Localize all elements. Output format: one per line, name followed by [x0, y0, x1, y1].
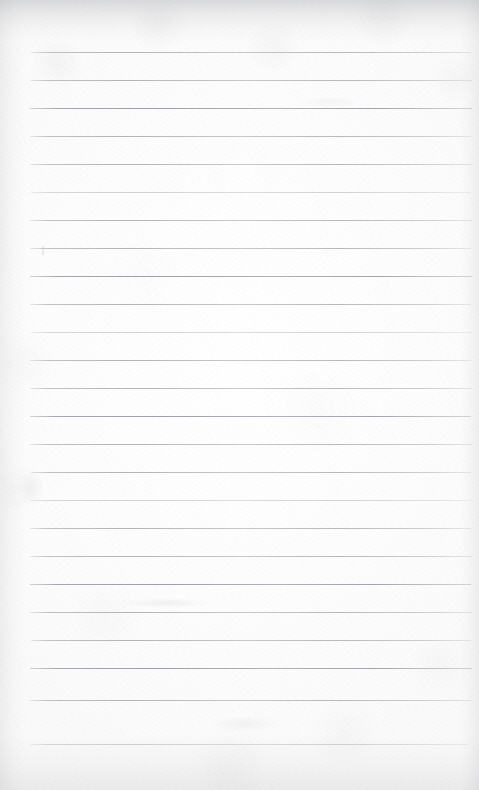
- ruled-line: [30, 612, 472, 613]
- ruled-line: [30, 668, 472, 669]
- ruled-line: [30, 108, 472, 109]
- ruled-line: [30, 528, 471, 529]
- ruled-line: [30, 500, 472, 501]
- ruled-line: [30, 136, 471, 137]
- ruled-line-layer: [0, 0, 479, 790]
- ruled-line: [30, 444, 472, 445]
- ruled-line: [30, 700, 471, 701]
- ruled-line: [30, 164, 472, 165]
- ruled-line: [30, 276, 472, 277]
- ruled-line: [30, 584, 471, 585]
- scan-edge-shadow-bottom: [0, 734, 479, 790]
- ruled-line: [30, 360, 471, 361]
- ruled-line: [31, 640, 471, 641]
- ruled-line: [31, 332, 472, 333]
- ruled-line: [31, 52, 471, 53]
- scan-edge-shadow-top: [0, 0, 479, 42]
- ruled-line: [30, 556, 472, 557]
- ruled-line: [30, 80, 472, 81]
- ruled-line: [30, 416, 471, 417]
- ruled-line: [30, 388, 472, 389]
- scan-edge-shadow-right: [459, 0, 479, 790]
- scan-edge-shadow-left: [0, 0, 26, 790]
- faint-tick-mark: [42, 246, 44, 255]
- ruled-line: [31, 192, 471, 193]
- ruled-line: [31, 472, 471, 473]
- ruled-line: [30, 248, 471, 249]
- ruled-line: [30, 304, 471, 305]
- ruled-line: [30, 220, 472, 221]
- scanned-page: A scanned blank sheet of ruled notebook …: [0, 0, 479, 790]
